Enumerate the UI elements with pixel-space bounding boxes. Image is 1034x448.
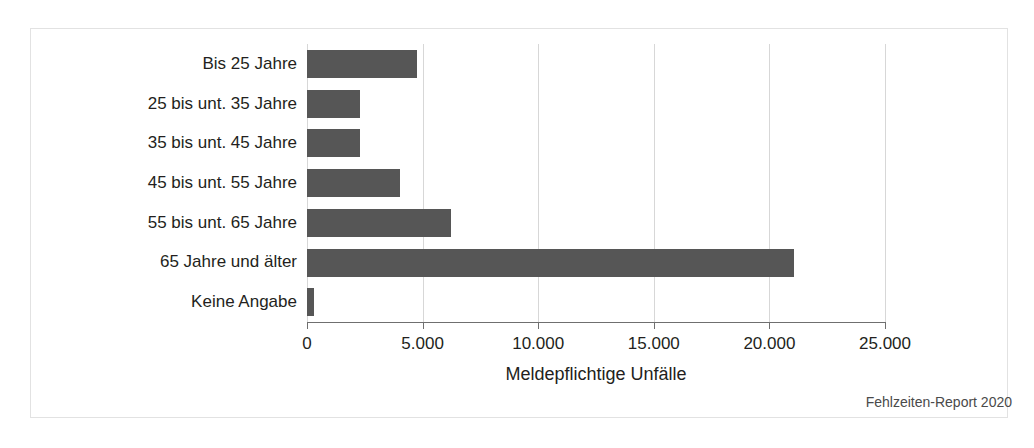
category-label: 55 bis unt. 65 Jahre	[7, 213, 297, 233]
bar-row	[307, 84, 885, 124]
tick-mark-1	[423, 322, 424, 329]
bar	[307, 50, 417, 78]
tick-mark-3	[654, 322, 655, 329]
tick-mark-0	[307, 322, 308, 329]
bar	[307, 249, 794, 277]
x-axis-title: Meldepflichtige Unfälle	[307, 364, 885, 385]
category-label: 45 bis unt. 55 Jahre	[7, 173, 297, 193]
gridline-25000	[885, 44, 886, 322]
category-label: Bis 25 Jahre	[7, 54, 297, 74]
bar	[307, 209, 451, 237]
category-label: 35 bis unt. 45 Jahre	[7, 133, 297, 153]
bar	[307, 169, 400, 197]
category-label: Keine Angabe	[7, 292, 297, 312]
tick-mark-4	[769, 322, 770, 329]
x-tick-label: 5.000	[401, 334, 444, 354]
tick-mark-2	[538, 322, 539, 329]
bar-row	[307, 44, 885, 84]
chart-figure: Bis 25 Jahre25 bis unt. 35 Jahre35 bis u…	[0, 0, 1034, 448]
x-tick-label: 20.000	[743, 334, 795, 354]
bar-row	[307, 163, 885, 203]
category-axis-labels: Bis 25 Jahre25 bis unt. 35 Jahre35 bis u…	[0, 44, 297, 322]
x-axis-line	[307, 322, 885, 323]
bar-row	[307, 123, 885, 163]
category-label: 65 Jahre und älter	[7, 252, 297, 272]
source-credit: Fehlzeiten-Report 2020	[866, 394, 1012, 410]
bar-row	[307, 282, 885, 322]
bar-row	[307, 203, 885, 243]
bar	[307, 288, 314, 316]
x-tick-label: 25.000	[859, 334, 911, 354]
tick-mark-5	[885, 322, 886, 329]
bar-row	[307, 243, 885, 283]
category-label: 25 bis unt. 35 Jahre	[7, 94, 297, 114]
x-tick-label: 0	[302, 334, 311, 354]
x-tick-label: 15.000	[628, 334, 680, 354]
x-tick-label: 10.000	[512, 334, 564, 354]
bar	[307, 129, 360, 157]
plot-area	[307, 44, 885, 322]
bar	[307, 90, 360, 118]
